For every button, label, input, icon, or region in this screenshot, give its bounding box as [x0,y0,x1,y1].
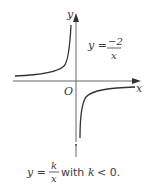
hyperbola-diagram: y x O y = −2 x y = k x with k < 0. [0,0,155,184]
x-axis-label: x [136,82,143,95]
origin-label: O [64,85,73,98]
caption-condition-rest: < 0. [97,166,120,179]
caption-lhs: y = [26,166,46,179]
y-axis-label: y [66,8,74,21]
caption-denominator: x [51,173,57,184]
curve-label-numerator: −2 [108,36,123,47]
y-axis-dot [75,144,77,146]
curve-label-lhs: y = [87,39,107,52]
y-axis-arrow-icon [73,13,79,22]
curve-branch-lower-right [80,87,135,138]
curve-label-denominator: x [111,50,117,61]
caption-with: with [61,166,84,179]
caption-numerator: k [51,160,57,171]
curve-branch-upper-left [15,25,71,76]
caption-condition-var: k [88,166,95,179]
